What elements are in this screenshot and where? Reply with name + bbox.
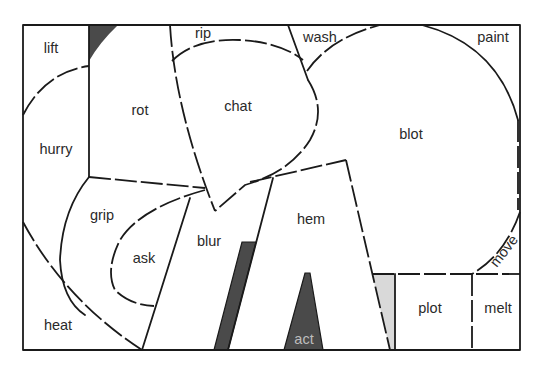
region-label-blot: blot <box>399 127 422 142</box>
region-diagram <box>0 0 540 367</box>
region-label-chat: chat <box>224 99 251 114</box>
dark-stripe-shape <box>214 242 256 350</box>
region-label-paint: paint <box>477 30 508 45</box>
region-label-heat: heat <box>44 318 72 333</box>
outer-frame <box>23 25 520 350</box>
region-label-rip: rip <box>195 26 211 41</box>
region-label-lift: lift <box>44 41 59 56</box>
light-gray-sliver <box>372 274 395 350</box>
region-label-act: act <box>294 332 313 347</box>
region-label-hem: hem <box>297 212 325 227</box>
region-label-melt: melt <box>484 301 511 316</box>
region-label-blur: blur <box>197 234 221 249</box>
dark-corner-triangle <box>89 25 118 61</box>
region-label-hurry: hurry <box>39 142 72 157</box>
region-label-plot: plot <box>418 301 441 316</box>
region-label-wash: wash <box>303 30 337 45</box>
region-label-rot: rot <box>132 103 149 118</box>
region-label-grip: grip <box>90 208 114 223</box>
region-label-ask: ask <box>133 251 156 266</box>
